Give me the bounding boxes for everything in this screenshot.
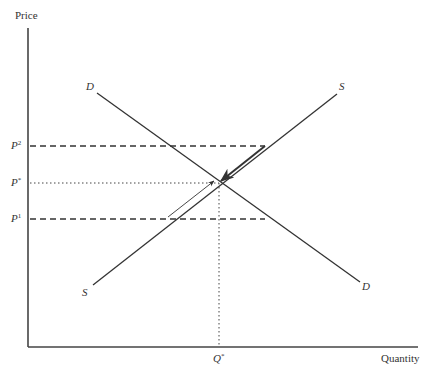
supply-label-bottom: S bbox=[82, 287, 88, 298]
p1-label-base: P bbox=[11, 212, 18, 224]
q-star-label-sup: * bbox=[221, 352, 225, 360]
demand-label-bottom: D bbox=[362, 281, 370, 292]
p-star-label: P* bbox=[11, 177, 21, 188]
x-axis-label: Quantity bbox=[381, 353, 420, 364]
q-star-label-base: Q bbox=[213, 352, 221, 364]
demand-label-top: D bbox=[86, 81, 94, 92]
adjustment-arrow-down bbox=[221, 146, 265, 181]
adjustment-arrow-up bbox=[168, 181, 214, 217]
diagram-graphics bbox=[0, 0, 428, 373]
p2-label-sup: 2 bbox=[18, 139, 22, 147]
p-star-label-sup: * bbox=[18, 176, 22, 184]
p2-label-base: P bbox=[11, 139, 18, 151]
p-star-label-base: P bbox=[11, 176, 18, 188]
p2-label: P2 bbox=[11, 140, 21, 151]
supply-label-top: S bbox=[339, 81, 345, 92]
supply-demand-diagram: Price Quantity D D S S P2 P* P1 Q* bbox=[0, 0, 428, 373]
demand-curve bbox=[97, 93, 360, 282]
supply-curve bbox=[93, 94, 337, 285]
q-star-label: Q* bbox=[213, 353, 224, 364]
p1-label-sup: 1 bbox=[18, 212, 22, 220]
y-axis-label: Price bbox=[15, 10, 38, 21]
p1-label: P1 bbox=[11, 213, 21, 224]
